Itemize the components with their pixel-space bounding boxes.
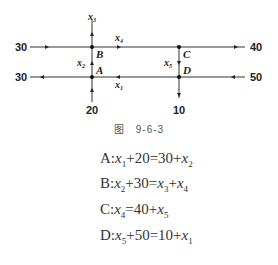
equation-a: A:x1+20=30+x2 (100, 150, 193, 169)
flow-left-top: 30 (15, 41, 27, 53)
arrow-up-icon (90, 32, 94, 36)
var-x3: x3 (87, 11, 96, 23)
node-a-dot (90, 75, 94, 79)
node-label-b: B (95, 48, 103, 60)
node-label-d: D (182, 64, 191, 76)
arrow-right-icon (117, 45, 121, 49)
node-d-dot (177, 75, 181, 79)
flow-left-bottom: 30 (15, 71, 27, 83)
arrow-up-icon (90, 88, 94, 92)
node-c-dot (177, 45, 181, 49)
var-x1: x1 (114, 79, 123, 91)
var-x2: x2 (76, 57, 85, 69)
equation-d: D:x5+50=10+x1 (100, 227, 193, 246)
node-label-a: A (95, 64, 103, 76)
equation-c: C:x4=40+x5 (100, 201, 168, 220)
node-label-c: C (183, 48, 191, 60)
flow-right-bottom: 50 (250, 71, 262, 83)
arrow-left-icon (40, 75, 44, 79)
arrow-right-icon (234, 45, 238, 49)
arrow-left-icon (231, 75, 235, 79)
arrow-down-icon (177, 61, 181, 65)
var-x5: x5 (163, 57, 172, 69)
equation-b: B:x2+30=x3+x4 (100, 175, 188, 194)
var-x4: x4 (114, 32, 123, 44)
traffic-flow-diagram: B A C D 30 30 40 50 20 10 x3 x4 x2 x1 x5 (0, 0, 278, 125)
arrow-down-icon (177, 93, 181, 97)
flow-bottom-left: 20 (86, 104, 98, 116)
arrow-right-icon (45, 45, 49, 49)
figure-caption: 图 9-6-3 (0, 121, 278, 136)
flow-bottom-right: 10 (173, 104, 185, 116)
flow-right-top: 40 (250, 41, 262, 53)
arrow-up-icon (90, 61, 94, 65)
node-b-dot (90, 45, 94, 49)
